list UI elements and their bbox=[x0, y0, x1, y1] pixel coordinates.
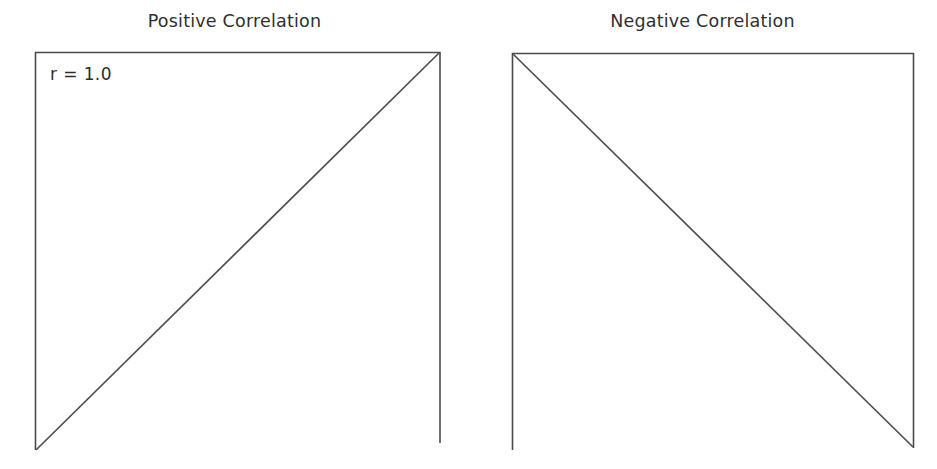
trend-line-positive bbox=[36, 53, 439, 450]
correlation-coefficient-label-positive: r = 1.0 bbox=[50, 64, 112, 84]
panel-negative-correlation: Negative Correlation r = −1.0 bbox=[468, 0, 937, 469]
correlation-figure: Positive Correlation r = 1.0 Negative Co… bbox=[0, 0, 937, 469]
panel-positive-correlation: Positive Correlation r = 1.0 bbox=[0, 0, 469, 469]
plot-area-negative bbox=[468, 0, 937, 469]
trend-line-negative bbox=[513, 54, 913, 447]
